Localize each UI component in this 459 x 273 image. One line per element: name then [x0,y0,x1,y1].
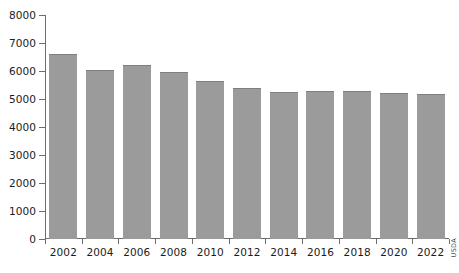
bar-chart: 010002000300040005000600070008000 200220… [0,0,459,273]
x-axis-tick-label: 2012 [233,246,260,258]
bar [233,88,261,239]
bar [270,92,298,239]
y-axis-tick [39,99,45,100]
x-axis-tick-label: 2020 [380,246,407,258]
x-axis-tick-label: 2006 [123,246,150,258]
x-axis-tick [45,239,46,244]
y-axis-tick-label: 5000 [9,93,36,105]
x-axis-tick-label: 2022 [417,246,444,258]
y-axis-tick-label: 6000 [9,65,36,77]
x-axis-tick [302,239,303,244]
y-axis-tick-label: 3000 [9,149,36,161]
y-axis-tick [39,155,45,156]
y-axis-tick [39,15,45,16]
bar [160,72,188,239]
y-axis-tick-label: 4000 [9,121,36,133]
x-axis-tick-label: 2016 [307,246,334,258]
bar [86,70,114,239]
x-axis-tick-label: 2014 [270,246,297,258]
y-axis-tick-label: 7000 [9,37,36,49]
bar [196,81,224,239]
y-axis-tick-label: 8000 [9,9,36,21]
y-axis-tick-label: 2000 [9,177,36,189]
x-axis-tick [412,239,413,244]
y-axis-tick [39,183,45,184]
y-axis-tick [39,43,45,44]
plot-area: 010002000300040005000600070008000 [45,15,449,239]
x-axis-tick [339,239,340,244]
x-axis-tick-label: 2010 [197,246,224,258]
y-axis-tick [39,71,45,72]
y-axis-tick [39,211,45,212]
y-axis-tick [39,127,45,128]
x-axis-tick-label: 2018 [344,246,371,258]
y-axis-tick-label: 1000 [9,205,36,217]
x-axis-tick-label: 2002 [50,246,77,258]
bar [380,93,408,239]
x-axis-tick-label: 2008 [160,246,187,258]
x-axis-tick [229,239,230,244]
x-axis-tick [155,239,156,244]
x-axis-tick [192,239,193,244]
x-axis-tick [82,239,83,244]
x-axis-tick [376,239,377,244]
x-axis-tick [118,239,119,244]
x-axis-tick [265,239,266,244]
source-credit-label: USDA [450,238,458,257]
bar [306,91,334,239]
x-axis: 2002200420062008201020122014201620182020… [45,239,449,269]
bar [417,94,445,239]
x-axis-tick-label: 2004 [87,246,114,258]
bar [49,54,77,239]
bar [343,91,371,239]
bar [123,65,151,239]
y-axis-tick-label: 0 [29,233,36,245]
